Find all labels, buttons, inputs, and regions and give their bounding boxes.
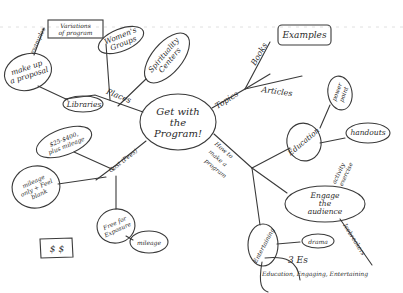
drama-node[interactable]: drama [302,236,334,246]
center-line-1: Get with [156,106,199,117]
center-line-2: the [170,117,186,128]
three-es-label: 3 Es [288,256,308,264]
engage-line-3: audience [308,208,342,216]
examples-node[interactable]: Examples [278,25,331,45]
variations-line-1: Variations [60,22,91,29]
engage-audience-node[interactable]: Engage the audience [290,189,360,219]
variations-line-2: of program [58,29,92,36]
center-line-3: Program! [154,128,202,139]
money-node[interactable]: $ $ [41,240,73,257]
variations-node[interactable]: Variations of program [48,21,103,37]
mind-map: Get with the Program! Places Libraries W… [0,0,403,293]
three-es-detail: Education, Engaging, Entertaining [262,270,368,277]
center-node[interactable]: Get with the Program! [145,100,211,144]
handouts-node[interactable]: handouts [346,128,390,138]
mileage-node[interactable]: mileage [131,237,167,247]
libraries-node[interactable]: Libraries [64,100,104,109]
